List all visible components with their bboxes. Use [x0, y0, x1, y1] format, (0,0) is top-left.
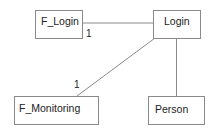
- multiplicity-label: 1: [74, 79, 80, 90]
- diagram-canvas: F_Login Login F_Monitoring Person 1 1: [0, 0, 218, 133]
- class-label: Person: [155, 103, 188, 115]
- class-box-f-monitoring[interactable]: F_Monitoring: [14, 96, 99, 125]
- multiplicity-label: 1: [86, 28, 92, 39]
- class-box-login[interactable]: Login: [153, 10, 201, 39]
- class-box-f-login[interactable]: F_Login: [35, 10, 83, 39]
- class-box-person[interactable]: Person: [148, 96, 205, 125]
- edge-login-fmonitoring: [77, 38, 155, 96]
- class-label: F_Login: [41, 15, 79, 27]
- class-label: F_Monitoring: [19, 102, 80, 114]
- class-label: Login: [164, 15, 190, 27]
